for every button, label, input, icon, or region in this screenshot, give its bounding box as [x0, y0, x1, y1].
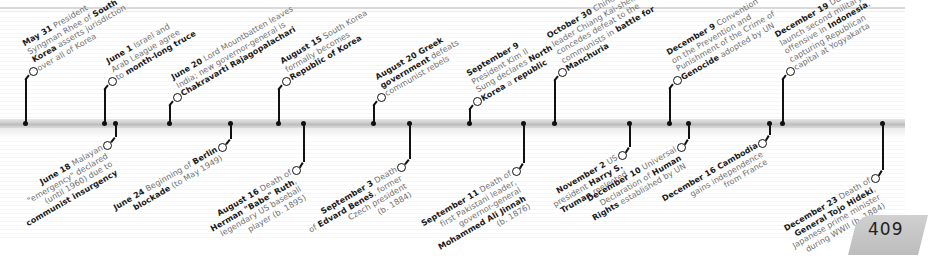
event-stem [629, 123, 631, 147]
event-stem [554, 80, 556, 123]
event-stem [115, 123, 117, 137]
event-marker-circle [282, 77, 291, 86]
page-number: 409 [868, 219, 903, 239]
event-stem [782, 79, 784, 123]
event-marker-circle [292, 166, 301, 175]
event-stem [373, 105, 375, 123]
event-stem [409, 123, 411, 159]
event-marker-circle [558, 68, 567, 77]
event-marker-circle [512, 167, 521, 176]
event-stem [278, 89, 280, 123]
event-marker-circle [677, 143, 686, 152]
event-stem [104, 89, 106, 123]
event-stem [169, 105, 171, 123]
event-stem [523, 123, 525, 163]
event-stem [303, 123, 305, 162]
event-marker-circle [173, 93, 182, 102]
event-marker-circle [618, 151, 627, 160]
event-marker-circle [786, 67, 795, 76]
event-marker-circle [377, 93, 386, 102]
event-stem [669, 88, 671, 123]
event-stem [688, 123, 690, 139]
event-marker-circle [218, 143, 227, 152]
event-stem [230, 123, 232, 139]
event-marker-circle [108, 77, 117, 86]
event-marker-circle [758, 139, 767, 148]
event-stem [469, 109, 471, 123]
event-stem [769, 123, 771, 135]
event-stem [882, 123, 884, 170]
event-marker-circle [397, 163, 406, 172]
event-marker-circle [871, 174, 880, 183]
event-marker-circle [103, 141, 112, 150]
event-stem [25, 79, 27, 123]
